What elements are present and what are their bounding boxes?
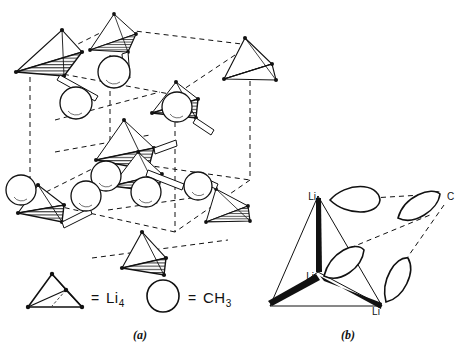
- sphere-ch3: [162, 92, 192, 122]
- sphere-ch3: [6, 175, 36, 205]
- sphere-ch3: [71, 181, 101, 211]
- legend-equals-2: =: [188, 290, 196, 306]
- sphere-ch3: [98, 56, 130, 88]
- atom-label-li-top: Li: [308, 191, 316, 202]
- crystal-structure-figure: = Li4 = CH3: [0, 0, 465, 355]
- sphere-ch3: [131, 177, 161, 207]
- sphere-ch3: [60, 87, 92, 119]
- figure-root: = Li4 = CH3: [0, 0, 465, 355]
- legend-equals-1: =: [91, 290, 99, 306]
- atom-label-li-center: Li: [306, 271, 314, 282]
- atom-label-li-bottom: Li: [372, 306, 380, 317]
- panel-caption-b: (b): [341, 328, 355, 342]
- panel-caption-a: (a): [133, 328, 147, 342]
- legend-circle-symbol: [147, 280, 179, 312]
- atom-label-c: C: [447, 191, 454, 202]
